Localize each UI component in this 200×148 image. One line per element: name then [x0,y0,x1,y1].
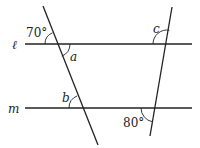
angle-label-b: b [62,91,70,105]
left-transversal [43,6,98,145]
angle-arc-a [62,44,70,56]
line-l-label: ℓ [12,38,17,52]
angle-label-c: c [153,22,160,36]
angle-arc-b [69,96,77,108]
angle-label-70: 70° [26,26,47,40]
angle-label-80: 80° [123,116,144,130]
diagram-canvas: ℓ m 70° a c b 80° [0,0,200,148]
angle-label-a: a [70,50,77,64]
line-m-label: m [8,102,19,116]
